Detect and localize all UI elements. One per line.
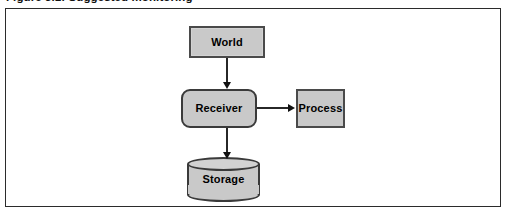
node-label-storage: Storage (187, 173, 260, 185)
figure-screenshot: Figure 3.1: Suggested monitoring World R… (0, 0, 509, 215)
node-label-receiver: Receiver (195, 103, 242, 114)
figure-caption: Figure 3.1: Suggested monitoring (6, 0, 326, 5)
node-label-process: Process (299, 103, 343, 114)
arrow-right-icon (288, 104, 295, 112)
arrow-down-icon (223, 82, 231, 89)
cylinder-bottom-mask (188, 185, 259, 194)
cylinder-top-ellipse (187, 157, 260, 171)
figure-frame: World Receiver Process Storage (5, 8, 501, 207)
connector-line (257, 107, 290, 109)
diagram-node-process[interactable]: Process (296, 89, 345, 128)
node-label-world: World (211, 37, 243, 48)
diagram-node-world[interactable]: World (189, 26, 265, 58)
diagram-node-receiver[interactable]: Receiver (181, 89, 257, 128)
diagram-node-storage[interactable]: Storage (187, 157, 260, 202)
connector-line (226, 128, 228, 154)
connector-line (226, 58, 228, 84)
arrow-down-icon (223, 152, 231, 159)
